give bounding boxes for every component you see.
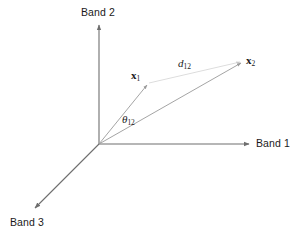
vector-label-x2: x2 bbox=[246, 51, 255, 68]
vector-label-x1: x1 bbox=[131, 66, 140, 83]
figure-canvas: Band 2 Band 1 Band 3 x1 x2 d12 θ12 bbox=[0, 0, 299, 239]
vector-label-x1-subscript: 1 bbox=[137, 74, 141, 83]
angle-label-theta12-subscript: 12 bbox=[127, 118, 134, 127]
angle-label-theta12: θ12 bbox=[122, 110, 135, 127]
vector-line-x2 bbox=[99, 63, 241, 144]
diagram-graphics bbox=[0, 0, 299, 239]
distance-label-d12-subscript: 12 bbox=[184, 62, 191, 71]
axis-line-band3 bbox=[35, 144, 99, 208]
distance-label-d12: d12 bbox=[178, 54, 191, 71]
axis-label-band1: Band 1 bbox=[256, 137, 290, 149]
axis-label-band3: Band 3 bbox=[10, 216, 44, 228]
vector-label-x2-subscript: 2 bbox=[252, 59, 256, 68]
axis-label-band2: Band 2 bbox=[81, 6, 115, 18]
distance-line-d12 bbox=[149, 62, 240, 83]
